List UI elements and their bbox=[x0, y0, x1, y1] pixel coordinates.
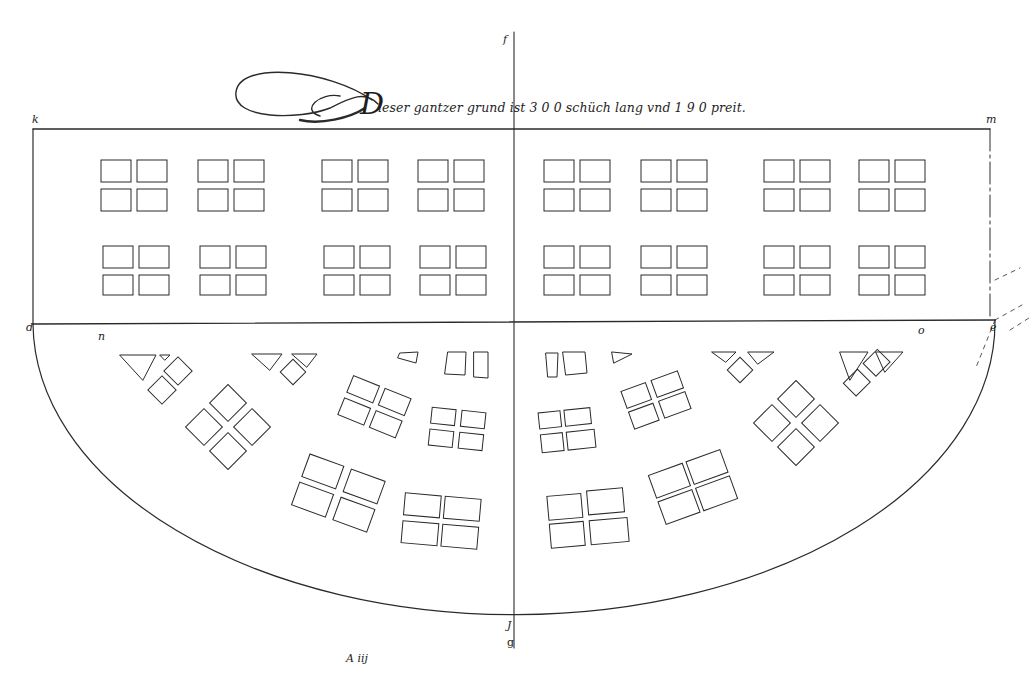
title-flourish bbox=[236, 72, 378, 116]
title-flourish bbox=[300, 108, 365, 122]
window-groups-rect bbox=[101, 160, 925, 295]
label-right-inner: o bbox=[918, 325, 925, 336]
label-left-mid: d bbox=[26, 322, 33, 333]
label-bottom-axis-lower: g bbox=[507, 637, 514, 648]
folio-mark: A iij bbox=[346, 652, 368, 665]
construction-line bbox=[995, 305, 1022, 320]
label-bottom-axis-upper: J bbox=[507, 620, 511, 631]
window-groups-semicircle-right bbox=[538, 349, 903, 548]
construction-line bbox=[995, 268, 1020, 280]
label-left-inner: n bbox=[98, 331, 105, 342]
label-top-right-corner: m bbox=[986, 114, 996, 125]
construction-line bbox=[1010, 318, 1029, 330]
title-initial: D bbox=[360, 86, 384, 121]
label-right-mid: e bbox=[990, 322, 997, 333]
title-caption: D ieser gantzer grund ist 3 0 0 schüch l… bbox=[378, 100, 746, 115]
window-groups-semicircle-left bbox=[120, 352, 488, 549]
label-top-axis: f bbox=[503, 34, 507, 45]
title-text: ieser gantzer grund ist 3 0 0 schüch lan… bbox=[378, 100, 746, 115]
label-top-left-corner: k bbox=[32, 114, 39, 125]
